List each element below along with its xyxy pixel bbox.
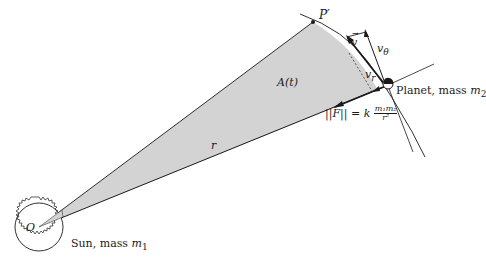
planet-shadow <box>384 78 393 84</box>
p-prime-label: P′ <box>319 9 330 21</box>
radius-label: r <box>211 140 216 151</box>
force-equation: ||F|| = k m₁m₂ r² <box>325 105 397 123</box>
v-theta-subscript: θ <box>383 47 388 57</box>
swept-area-region <box>39 22 378 227</box>
sun-mass-symbol: m <box>131 237 141 250</box>
force-lhs: ||F|| = k <box>325 107 370 120</box>
planet-mass-subscript: 2 <box>481 89 486 99</box>
p-prime-point <box>311 20 315 24</box>
planet-label: Planet, mass m2 <box>396 85 486 99</box>
sun-label: Sun, mass m1 <box>71 238 148 252</box>
v-r-label: vr <box>365 69 376 83</box>
area-label: A(t) <box>277 77 298 88</box>
origin-label: O <box>26 222 35 233</box>
velocity-label: → v <box>351 37 357 48</box>
sun-mass-subscript: 1 <box>142 242 148 252</box>
v-theta-arrowhead-icon <box>364 29 369 37</box>
planet-text: Planet, mass <box>396 84 470 97</box>
v-theta-label: vθ <box>377 43 389 57</box>
planet-mass-symbol: m <box>470 84 480 97</box>
force-fraction: m₁m₂ r² <box>374 105 398 123</box>
sun-text: Sun, mass <box>71 237 131 250</box>
velocity-arrow-icon: → <box>352 30 359 38</box>
v-r-subscript: r <box>371 73 375 83</box>
force-denominator: r² <box>374 114 398 122</box>
